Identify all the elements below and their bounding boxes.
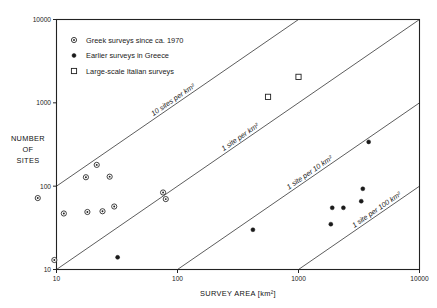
legend-item-label: Greek surveys since ca. 1970 <box>86 36 183 45</box>
legend-marker-earlier-surveys <box>72 54 76 58</box>
data-point-open-center <box>85 176 87 178</box>
y-tick-label: 10 <box>44 266 52 273</box>
chart-canvas: 10100100010000 10100100010000 10 sites p… <box>0 0 437 308</box>
legend-marker-greek-surveys-center <box>73 39 75 41</box>
data-point-filled <box>367 140 371 144</box>
data-point-open-center <box>53 259 55 261</box>
y-tick-label: 10000 <box>33 16 52 23</box>
y-axis-title-line: OF <box>23 145 34 154</box>
data-point-square <box>265 94 270 99</box>
data-point-open-center <box>86 211 88 213</box>
data-point-open-center <box>113 206 115 208</box>
data-point-open-center <box>63 213 65 215</box>
x-tick-label: 1000 <box>291 275 306 282</box>
data-point-filled <box>361 187 365 191</box>
data-point-filled <box>341 206 345 210</box>
x-tick-label: 10000 <box>410 275 429 282</box>
y-tick-label: 100 <box>40 183 51 190</box>
data-point-filled <box>251 228 255 232</box>
data-point-open-center <box>96 164 98 166</box>
data-point-filled <box>116 255 120 259</box>
y-axis-title-line: SITES <box>16 156 39 165</box>
legend-item-label: Large-scale Italian surveys <box>86 67 174 76</box>
x-tick-label: 10 <box>53 275 61 282</box>
scatter-chart-figure: 10100100010000 10100100010000 10 sites p… <box>0 0 437 308</box>
data-point-filled <box>359 199 363 203</box>
legend-marker-italian-surveys <box>71 68 76 73</box>
legend-item-label: Earlier surveys in Greece <box>86 51 169 60</box>
data-point-open-center <box>165 198 167 200</box>
data-point-filled <box>329 222 333 226</box>
x-axis-title: SURVEY AREA [km²] <box>200 289 276 298</box>
x-tick-label: 100 <box>172 275 183 282</box>
data-point-open-center <box>102 210 104 212</box>
data-point-open-center <box>162 192 164 194</box>
data-point-square <box>296 74 301 79</box>
y-tick-label: 1000 <box>36 99 51 106</box>
data-point-open-center <box>37 197 39 199</box>
data-point-filled <box>330 206 334 210</box>
chart-background <box>0 0 437 308</box>
chart-legend: Greek surveys since ca. 1970Earlier surv… <box>71 36 183 76</box>
y-axis-title-line: NUMBER <box>11 134 45 143</box>
data-point-open-center <box>109 176 111 178</box>
